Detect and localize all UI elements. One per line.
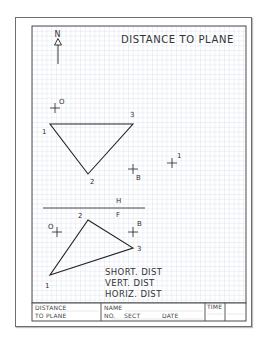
svg-text:B: B — [136, 174, 141, 182]
svg-text:O: O — [48, 223, 54, 231]
problem-title-line1: DISTANCE — [35, 304, 67, 311]
vert-dist-label: VERT. DIST — [105, 278, 155, 288]
worksheet-title: DISTANCE TO PLANE — [121, 34, 234, 45]
answer-labels: SHORT. DIST VERT. DIST HORIZ. DIST — [105, 267, 163, 299]
front-vertex-2-label: 2 — [78, 212, 82, 220]
horiz-dist-label: HORIZ. DIST — [105, 289, 162, 299]
top-vertex-2-label: 2 — [90, 178, 94, 186]
north-label: N — [55, 30, 61, 39]
front-vertex-1-label: 1 — [45, 282, 49, 290]
title-block: DISTANCE TO PLANE NAME NO. SECT DATE TIM… — [32, 303, 246, 321]
svg-text:1: 1 — [177, 152, 181, 160]
date-field-label: DATE — [162, 312, 178, 319]
svg-text:B: B — [137, 220, 142, 228]
front-vertex-3-label: 3 — [137, 245, 141, 253]
fold-label-f: F — [116, 211, 120, 219]
name-field-label: NAME — [104, 304, 122, 311]
time-field-label: TIME — [206, 303, 222, 310]
short-dist-label: SHORT. DIST — [105, 267, 163, 277]
problem-title-line2: TO PLANE — [34, 312, 66, 319]
grid-area — [32, 26, 246, 303]
svg-text:O: O — [59, 98, 65, 106]
sect-field-label: SECT — [124, 312, 140, 319]
no-field-label: NO. — [104, 312, 115, 319]
fold-label-h: H — [116, 197, 121, 205]
worksheet-drawing: DISTANCE TO PLANE N O 1 3 2 B 1 H F — [0, 0, 266, 343]
top-vertex-3-label: 3 — [130, 111, 134, 119]
top-vertex-1-label: 1 — [42, 128, 46, 136]
